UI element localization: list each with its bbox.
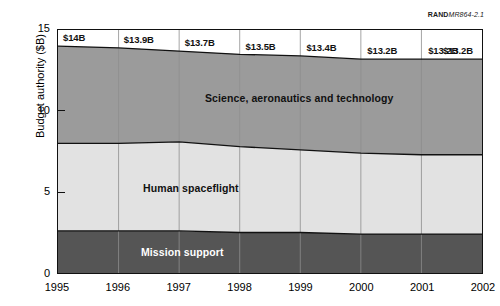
total-label-1999: $13.4B [306, 42, 336, 53]
y-tick-label-15: 15 [0, 23, 50, 34]
area-band-human-spaceflight [58, 142, 482, 234]
y-tick-mark-5 [57, 192, 65, 193]
y-tick-label-5: 5 [0, 186, 50, 197]
x-tick-label-2000: 2000 [331, 281, 391, 293]
x-tick-label-2001: 2001 [392, 281, 452, 293]
total-label-1996: $13.9B [124, 34, 154, 45]
x-tick-label-1998: 1998 [210, 281, 270, 293]
source-tag: RANDMR864-2.1 [428, 11, 484, 18]
total-label-2000: $13.2B [367, 45, 397, 56]
stacked-area-chart [58, 30, 482, 273]
area-band-mission-support [58, 231, 482, 273]
x-tick-label-2002: 2002 [453, 281, 500, 293]
y-tick-label-10: 10 [0, 105, 50, 116]
area-bands [58, 46, 482, 273]
source-tag-number: MR864-2.1 [448, 11, 484, 18]
total-label-1995: $14B [63, 32, 85, 43]
y-tick-label-0: 0 [0, 268, 50, 279]
source-tag-org: RAND [428, 11, 449, 18]
total-label-1997: $13.7B [185, 37, 215, 48]
x-tick-label-1999: 1999 [270, 281, 330, 293]
y-tick-mark-10 [57, 110, 65, 111]
x-tick-label-1997: 1997 [149, 281, 209, 293]
x-tick-label-1995: 1995 [27, 281, 87, 293]
total-label-2002: $13.2B [443, 45, 473, 56]
band-label-science: Science, aeronautics and technology [205, 92, 393, 104]
total-label-1998: $13.5B [246, 41, 276, 52]
band-label-human-spaceflight: Human spaceflight [143, 182, 239, 194]
x-tick-label-1996: 1996 [88, 281, 148, 293]
band-label-mission-support: Mission support [141, 246, 224, 258]
plot-area [57, 29, 483, 274]
